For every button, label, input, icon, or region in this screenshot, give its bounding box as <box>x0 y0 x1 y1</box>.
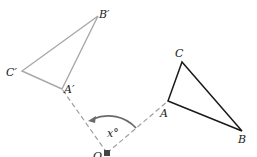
label-a-prime: A′ <box>63 83 75 96</box>
label-c: C <box>175 47 184 60</box>
label-o: O <box>93 150 102 157</box>
guide-line-o-to-a-prime <box>62 89 107 153</box>
label-c-prime: C′ <box>6 66 17 79</box>
rotation-diagram: A B C A′ B′ C′ x° O <box>0 0 257 157</box>
center-point <box>104 150 110 156</box>
image-triangle <box>22 16 98 89</box>
label-a: A <box>159 107 168 120</box>
label-b: B <box>237 133 246 146</box>
label-angle: x° <box>107 127 119 140</box>
label-b-prime: B′ <box>98 8 110 21</box>
original-triangle <box>168 62 242 131</box>
arrowhead-icon <box>88 116 96 123</box>
